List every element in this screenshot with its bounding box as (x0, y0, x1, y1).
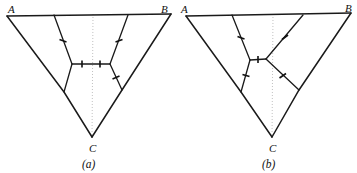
panel-a-caption: (a) (82, 158, 96, 171)
panel-a-vertex-label-B: B (161, 3, 168, 15)
panel-a-edge-A-S3-C (7, 16, 92, 137)
steiner-tree-figure: A B C (a) A B C (b) (0, 0, 357, 173)
panel-a-axis-dotted-line (92, 14, 93, 139)
panel-a-vertex-label-C: C (89, 142, 97, 154)
figure-canvas: A B C (a) A B C (b) (0, 0, 357, 173)
panel-b-axis-dotted-line (272, 14, 273, 139)
panel-a-vertex-label-A: A (7, 3, 15, 15)
panel-b-caption: (b) (262, 158, 276, 171)
panel-a-edge-S2-top (110, 15, 128, 64)
panel-b-vertex-label-B: B (345, 2, 352, 14)
panel-b-vertex-label-A: A (180, 3, 188, 15)
panel-a-edge-S1-S3 (64, 64, 72, 92)
panel-b-tick-mark-S1-S3 (243, 75, 250, 77)
panel-a-edge-B-S4-C (92, 14, 171, 137)
panel-b-edge-A-B-top (186, 13, 351, 16)
panel-a: A B C (a) (7, 3, 171, 171)
panel-a-edge-S1-top (54, 15, 72, 64)
panel-b-edge-A-S3-C (186, 16, 272, 137)
panel-a-edge-A-B-top (7, 14, 171, 16)
panel-b-vertex-label-C: C (269, 142, 277, 154)
panel-b-edge-S2-S4 (266, 59, 299, 90)
panel-b: A B C (b) (180, 2, 352, 171)
